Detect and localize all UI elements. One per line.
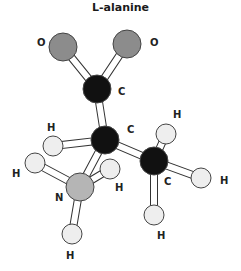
hydrogen-atom-h3 xyxy=(100,159,120,179)
atom-label-o1: O xyxy=(37,37,46,48)
atom-label-o2: O xyxy=(150,37,159,48)
molecule-diagram: OOCCCNHHHHHHH xyxy=(0,0,241,271)
hydrogen-atom-h1 xyxy=(43,136,63,156)
oxygen-atom-o1 xyxy=(49,33,77,61)
hydrogen-atom-h4 xyxy=(62,224,82,244)
carbon-atom-c2 xyxy=(91,126,119,154)
atom-label-h7: H xyxy=(157,230,165,241)
atom-label-h4: H xyxy=(66,250,74,261)
hydrogen-atom-h2 xyxy=(25,153,45,173)
atom-label-h5: H xyxy=(173,109,181,120)
carbon-atom-c3 xyxy=(140,147,168,175)
atom-label-h2: H xyxy=(12,168,20,179)
oxygen-atom-o2 xyxy=(113,30,141,58)
atom-label-h1: H xyxy=(47,122,55,133)
atom-label-c1: C xyxy=(118,86,125,97)
atom-label-n: N xyxy=(55,192,63,203)
nitrogen-atom-n xyxy=(66,173,94,201)
hydrogen-atom-h7 xyxy=(144,205,164,225)
atom-label-h3: H xyxy=(115,182,123,193)
atom-label-c3: C xyxy=(164,176,171,187)
atom-label-h6: H xyxy=(220,175,228,186)
atom-label-c2: C xyxy=(127,124,134,135)
hydrogen-atom-h5 xyxy=(156,124,176,144)
hydrogen-atom-h6 xyxy=(191,168,211,188)
carbon-atom-c1 xyxy=(83,75,111,103)
